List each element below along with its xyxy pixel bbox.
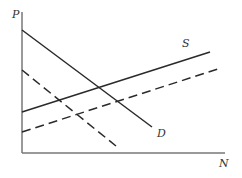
supply-label: S [182,37,190,50]
demand-curve [22,30,152,127]
supply-curve [22,52,210,112]
y-axis-label: P [11,8,20,21]
supply-demand-diagram: P N S D [0,0,242,178]
x-axis-label: N [218,157,229,170]
supply-curve-shifted [22,69,218,132]
demand-label: D [156,127,166,140]
